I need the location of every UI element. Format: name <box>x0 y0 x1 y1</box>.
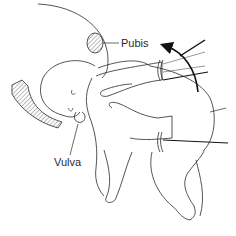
illustration-canvas: Pubis Vulva <box>0 0 236 236</box>
baby-face-mark <box>68 108 73 111</box>
sacrum-bone <box>12 80 62 128</box>
pubis-label: Pubis <box>121 38 149 49</box>
breech-delivery-illustration <box>0 0 236 236</box>
baby-back <box>98 61 150 68</box>
operator-lower-arm <box>109 102 172 139</box>
vulva-label: Vulva <box>54 157 81 168</box>
baby-head <box>40 61 95 117</box>
pubis-bone <box>87 33 103 53</box>
vulva-leader-line <box>70 124 78 155</box>
lower-wristband <box>158 132 163 152</box>
baby-right-leg-inner <box>196 160 203 216</box>
operator-upper-arm <box>96 62 162 96</box>
vulva-outline <box>74 112 85 122</box>
baby-left-leg <box>104 150 132 203</box>
baby-ear <box>71 90 75 94</box>
